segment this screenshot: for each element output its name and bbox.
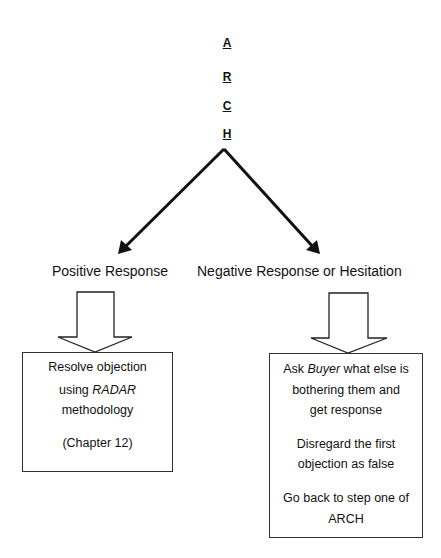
box-text-line: ARCH [270,512,422,527]
box-text-line: methodology [23,403,172,418]
box-text-line: get response [270,403,422,418]
branch-arrow-right-icon [224,149,320,254]
box-text-line: (Chapter 12) [23,436,172,451]
box-text-emphasis: RADAR [92,383,136,397]
box-text-fragment: using [59,383,92,397]
box-text-line: Ask Buyer what else is [270,362,422,377]
box-text-fragment: Ask [283,362,307,376]
hollow-down-arrow-left-icon [58,292,132,352]
negative-response-box: Ask Buyer what else is bothering them an… [269,353,423,538]
positive-response-box: Resolve objection using RADAR methodolog… [22,352,173,472]
box-text-line: bothering them and [270,383,422,398]
box-text-line: Go back to step one of [270,491,422,506]
box-text-fragment: what else is [340,362,409,376]
box-text-line: Resolve objection [23,360,172,375]
negative-response-label: Negative Response or Hesitation [197,263,402,279]
box-text-line: Disregard the first [270,437,422,452]
box-text-emphasis: Buyer [307,362,340,376]
branch-arrow-left-icon [118,149,224,254]
box-text-line: using RADAR [23,383,172,398]
box-text-line: objection as false [270,457,422,472]
hollow-down-arrow-right-icon [311,293,387,353]
positive-response-label: Positive Response [52,263,168,279]
